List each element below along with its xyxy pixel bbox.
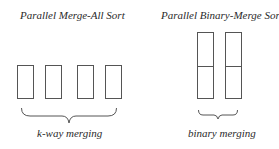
binary-brace xyxy=(199,110,238,119)
run-block xyxy=(226,33,242,99)
k-way-merging-caption: k-way merging xyxy=(37,127,102,139)
run-block xyxy=(78,66,94,99)
k-way-brace xyxy=(22,108,117,123)
run-block xyxy=(106,66,122,99)
run-block xyxy=(46,66,62,99)
binary-merging-caption: binary merging xyxy=(188,127,256,139)
run-block xyxy=(198,33,214,99)
run-block xyxy=(18,66,34,99)
